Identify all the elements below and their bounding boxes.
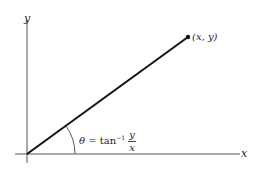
theta-symbol: θ	[79, 135, 85, 146]
polar-angle-diagram: y x (x, y) θ = tan−1 y x	[0, 0, 257, 171]
inverse-exponent: −1	[116, 134, 125, 141]
point-label: (x, y)	[192, 32, 217, 42]
equals-sign: =	[88, 135, 96, 146]
x-axis-label: x	[241, 148, 247, 159]
tan-function: tan	[100, 135, 116, 146]
point-marker	[186, 35, 190, 39]
angle-formula: θ = tan−1 y x	[79, 130, 136, 153]
fraction-denominator: x	[128, 142, 136, 153]
fraction-numerator: y	[128, 130, 136, 142]
angle-arc	[66, 126, 75, 154]
ratio-fraction: y x	[128, 130, 136, 153]
y-axis-label: y	[24, 13, 30, 24]
